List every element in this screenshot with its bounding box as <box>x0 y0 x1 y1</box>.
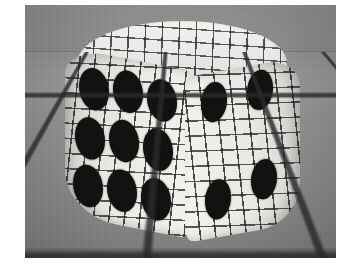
die-pip <box>251 157 277 202</box>
die-pip <box>247 68 273 113</box>
die-pip <box>147 76 177 124</box>
die-pip <box>107 167 137 215</box>
die-object <box>65 21 300 233</box>
die-pip <box>201 80 227 125</box>
die-pip <box>113 68 143 116</box>
die-face-left <box>65 47 193 240</box>
die-pip <box>79 65 109 113</box>
die-pip <box>109 117 139 165</box>
die-pip <box>143 126 173 174</box>
die-pip <box>73 162 103 210</box>
render-viewport: Wireframe-rendered rounded die on checke… <box>25 5 336 258</box>
wireframe-mesh-right-icon <box>185 57 300 243</box>
die-pip <box>205 177 231 222</box>
die-face-right <box>185 57 300 243</box>
die-pip <box>75 115 105 163</box>
die-pip <box>141 175 171 223</box>
